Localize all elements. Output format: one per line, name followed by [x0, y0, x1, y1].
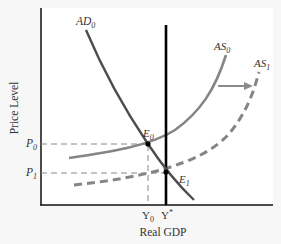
p1-label: P1 — [25, 166, 37, 181]
p0-label: P0 — [25, 137, 37, 152]
e0-point — [145, 141, 150, 146]
diagram-canvas: Price Level Real GDP AD0 AS0 AS1 E0 E1 P… — [0, 0, 281, 244]
ystar-label: Y* — [161, 208, 173, 221]
ad0-label: AD0 — [75, 15, 95, 30]
y-axis-label: Price Level — [8, 82, 20, 135]
e1-point — [163, 169, 168, 174]
as1-label: AS1 — [253, 57, 270, 72]
shift-arrow-head — [244, 82, 253, 90]
as0-label: AS0 — [213, 40, 230, 55]
y0-label: Y0 — [142, 209, 154, 224]
ad-as-diagram: Price Level Real GDP AD0 AS0 AS1 E0 E1 P… — [0, 0, 281, 244]
x-axis-label: Real GDP — [140, 226, 187, 238]
